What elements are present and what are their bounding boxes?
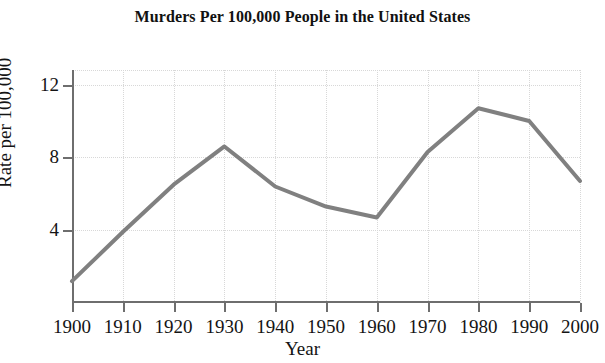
x-tick-label: 1970 bbox=[409, 316, 447, 338]
x-axis-label: Year bbox=[0, 338, 605, 360]
x-tick-mark bbox=[377, 303, 379, 312]
x-tick-label: 1950 bbox=[307, 316, 345, 338]
x-tick-label: 1960 bbox=[358, 316, 396, 338]
x-tick-mark bbox=[174, 303, 176, 312]
x-tick-label: 1990 bbox=[510, 316, 548, 338]
x-tick-label: 1920 bbox=[155, 316, 193, 338]
murder-rate-line bbox=[72, 108, 580, 281]
x-tick-mark bbox=[529, 303, 531, 312]
x-tick-label: 1910 bbox=[104, 316, 142, 338]
gridline-vertical bbox=[580, 70, 581, 303]
y-tick-label: 8 bbox=[50, 146, 60, 168]
y-tick-mark bbox=[63, 230, 72, 232]
y-axis-label: Rate per 100,000 bbox=[0, 58, 16, 188]
plot-area: 4812 19001910192019301940195019601970198… bbox=[72, 70, 580, 303]
x-tick-mark bbox=[580, 303, 582, 312]
x-tick-mark bbox=[224, 303, 226, 312]
x-tick-mark bbox=[123, 303, 125, 312]
x-tick-label: 1940 bbox=[256, 316, 294, 338]
x-tick-mark bbox=[428, 303, 430, 312]
x-tick-mark bbox=[326, 303, 328, 312]
chart-title: Murders Per 100,000 People in the United… bbox=[0, 8, 605, 26]
x-tick-mark bbox=[275, 303, 277, 312]
y-tick-label: 12 bbox=[40, 74, 59, 96]
x-tick-mark bbox=[478, 303, 480, 312]
y-tick-label: 4 bbox=[50, 219, 60, 241]
x-tick-label: 1930 bbox=[205, 316, 243, 338]
data-line-series bbox=[72, 70, 580, 303]
x-tick-label: 1900 bbox=[53, 316, 91, 338]
x-tick-mark bbox=[72, 303, 74, 312]
x-tick-label: 2000 bbox=[561, 316, 599, 338]
chart-figure: Murders Per 100,000 People in the United… bbox=[0, 0, 605, 363]
y-tick-mark bbox=[63, 157, 72, 159]
y-tick-mark bbox=[63, 85, 72, 87]
x-tick-label: 1980 bbox=[459, 316, 497, 338]
